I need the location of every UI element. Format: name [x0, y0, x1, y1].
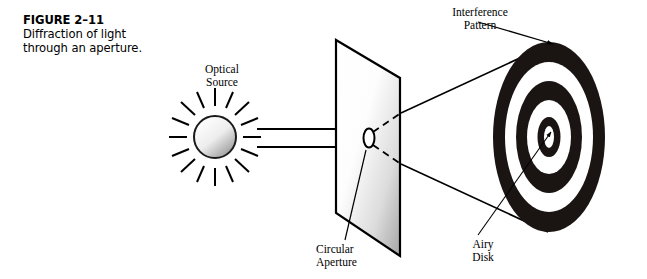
figure-container: FIGURE 2–11 Diffraction of light through…	[0, 0, 647, 279]
label-airy-disk: Airy Disk	[455, 238, 511, 264]
optical-source-icon	[169, 88, 261, 186]
figure-caption-text: Diffraction of light through an aperture…	[23, 27, 173, 55]
figure-caption: FIGURE 2–11 Diffraction of light through…	[23, 13, 173, 56]
figure-number: FIGURE 2–11	[23, 13, 173, 27]
label-circular-aperture: Circular Aperture	[316, 243, 396, 269]
interference-pattern-rings	[493, 42, 605, 232]
label-interference-pattern: Interference Pattern	[425, 6, 535, 32]
label-optical-source: Optical Source	[182, 63, 262, 89]
